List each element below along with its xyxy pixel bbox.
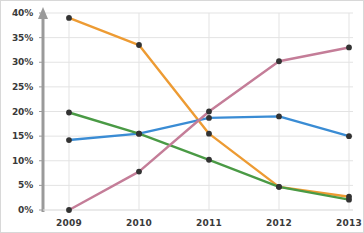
data-point-marker (206, 157, 212, 163)
data-point-marker (276, 114, 282, 120)
data-point-marker (66, 207, 72, 213)
y-axis-tick-label: 30% (5, 57, 33, 67)
data-point-marker (276, 58, 282, 64)
data-point-marker (346, 133, 352, 139)
data-point-marker (346, 45, 352, 51)
x-axis-tick-label: 2012 (257, 218, 301, 228)
data-point-marker (66, 15, 72, 21)
y-axis-tick-label: 25% (5, 82, 33, 92)
y-axis-tick-label: 0% (5, 205, 33, 215)
x-axis-tick-label: 2010 (117, 218, 161, 228)
data-point-marker (346, 197, 352, 203)
data-point-marker (66, 137, 72, 143)
data-point-marker (206, 115, 212, 121)
y-axis-tick-label: 10% (5, 156, 33, 166)
line-chart: 0%5%10%15%20%25%30%35%40%200920102011201… (0, 0, 364, 233)
data-point-marker (136, 131, 142, 137)
plot-area (1, 1, 364, 233)
x-axis-tick-label: 2013 (327, 218, 364, 228)
data-point-marker (136, 169, 142, 175)
y-axis-tick-label: 40% (5, 8, 33, 18)
data-point-marker (206, 109, 212, 115)
y-axis-tick-label: 35% (5, 33, 33, 43)
y-axis-tick-label: 5% (5, 180, 33, 190)
data-point-marker (66, 110, 72, 116)
y-axis-tick-label: 15% (5, 131, 33, 141)
data-point-marker (206, 131, 212, 137)
x-axis-tick-label: 2011 (187, 218, 231, 228)
x-axis-tick-label: 2009 (47, 218, 91, 228)
data-point-marker (276, 184, 282, 190)
data-point-marker (136, 42, 142, 48)
y-axis-tick-label: 20% (5, 107, 33, 117)
